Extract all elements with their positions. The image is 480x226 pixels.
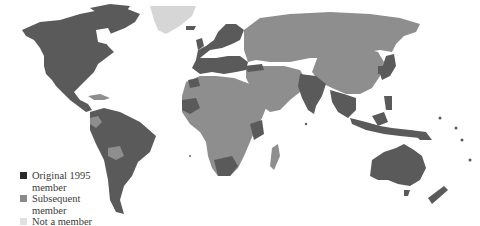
- region-southeast-asia: [330, 90, 356, 118]
- region-pacific-island: [305, 123, 307, 125]
- legend-item-original: Original 1995 member: [20, 170, 100, 193]
- region-iceland: [186, 26, 196, 30]
- region-borneo: [372, 112, 388, 126]
- legend-label: Subsequent member: [32, 193, 100, 216]
- region-caribbean: [88, 94, 110, 100]
- swatch-non-member-icon: [20, 218, 27, 225]
- region-pacific-island: [189, 155, 191, 157]
- region-central-america: [62, 92, 92, 112]
- region-madagascar: [270, 144, 280, 170]
- swatch-original-icon: [20, 172, 27, 179]
- swatch-subsequent-icon: [20, 195, 27, 202]
- legend: Original 1995 member Subsequent member N…: [20, 170, 100, 226]
- region-australia: [370, 144, 426, 186]
- region-tasmania: [404, 190, 410, 196]
- region-new-zealand: [428, 186, 448, 204]
- region-arctic-islands: [90, 4, 130, 12]
- legend-item-subsequent: Subsequent member: [20, 193, 100, 216]
- region-europe: [192, 24, 248, 74]
- region-pacific-island: [439, 117, 442, 120]
- region-pacific-island: [225, 141, 227, 143]
- region-north-america: [22, 8, 140, 96]
- region-pacific-island: [469, 159, 472, 162]
- region-pacific-island: [455, 127, 458, 130]
- region-korea: [378, 66, 384, 74]
- region-philippines: [384, 96, 392, 110]
- legend-label: Original 1995 member: [32, 170, 100, 193]
- region-pacific-island: [461, 139, 464, 142]
- legend-label: Not a member: [32, 216, 92, 226]
- legend-item-non-member: Not a member: [20, 216, 100, 226]
